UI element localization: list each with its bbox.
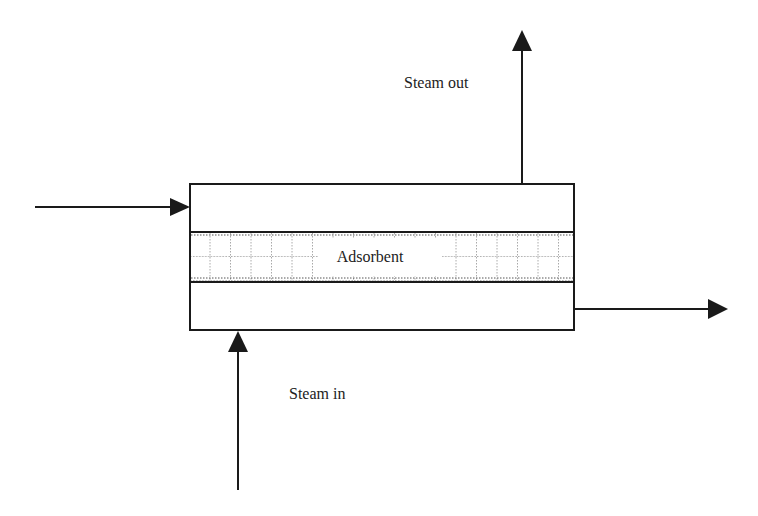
adsorption-diagram: Adsorbent Steam out Steam in (0, 0, 758, 516)
arrowhead-up-icon (228, 331, 248, 352)
adsorbent-label: Adsorbent (337, 248, 404, 265)
steam-out-label: Steam out (404, 74, 469, 91)
steam-in-arrow (228, 331, 248, 490)
feed-inlet-arrow (35, 198, 190, 216)
arrowhead-right-icon (708, 299, 728, 319)
arrowhead-up-icon (512, 30, 532, 51)
steam-out-arrow (512, 30, 532, 184)
steam-in-label: Steam in (289, 385, 345, 402)
adsorbent-layer: Adsorbent (190, 232, 574, 282)
arrowhead-right-icon (170, 198, 190, 216)
product-outlet-arrow (574, 299, 728, 319)
